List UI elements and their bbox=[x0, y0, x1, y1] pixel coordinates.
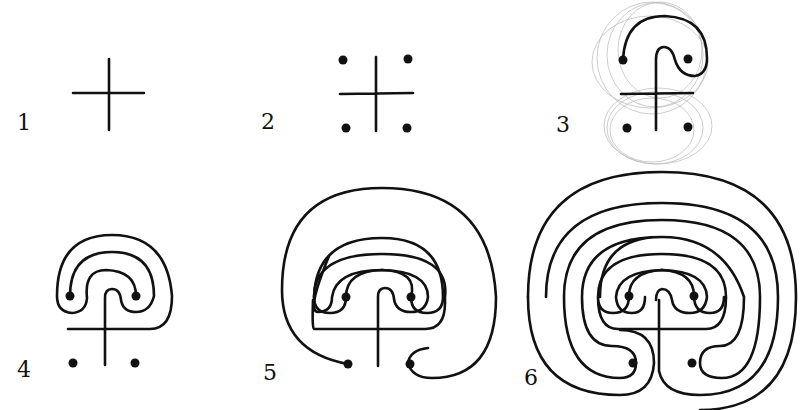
step-6-completed-labyrinth-icon bbox=[528, 172, 796, 410]
labyrinth-steps-figure bbox=[0, 0, 805, 410]
step-5-five-circuits-icon bbox=[282, 188, 496, 378]
step-4-three-arcs-icon bbox=[57, 235, 172, 368]
step-1-cross-icon bbox=[73, 59, 144, 130]
step-2-cross-dots-icon bbox=[339, 55, 414, 133]
step-3-first-loop-icon bbox=[592, 2, 712, 164]
